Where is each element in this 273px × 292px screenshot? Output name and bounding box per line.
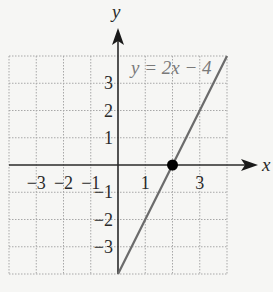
y-tick-label: −1: [94, 182, 113, 202]
x-tick-label: −3: [27, 173, 46, 193]
y-tick-label: 3: [104, 73, 113, 93]
y-tick-label: 1: [104, 128, 113, 148]
x-axis-label: x: [261, 154, 271, 175]
x-tick-label: −2: [54, 173, 73, 193]
y-tick-label: −2: [94, 210, 113, 230]
x-intercept-point: [167, 160, 178, 171]
y-tick-label: −3: [94, 237, 113, 257]
equation-label: y = 2x − 4: [129, 57, 212, 78]
coordinate-plane: −3−2−113321−1−2−3 y = 2x − 4 x y: [0, 0, 273, 292]
y-tick-label: 2: [104, 101, 113, 121]
x-tick-label: 3: [195, 173, 204, 193]
x-tick-label: 1: [141, 173, 150, 193]
y-axis-label: y: [110, 1, 121, 22]
